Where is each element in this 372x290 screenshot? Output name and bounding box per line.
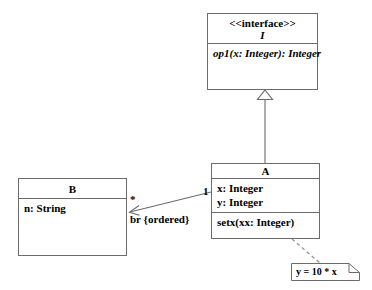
class-a-attributes-compartment: x: Integer y: Integer: [212, 178, 319, 212]
association-role-label: br {ordered}: [130, 213, 189, 225]
interface-name-compartment: <<interface>> I: [208, 14, 317, 43]
class-b-box[interactable]: B n: String: [18, 178, 127, 256]
interface-operation-item: op1(x: Integer): Integer: [213, 46, 321, 60]
class-a-attribute-item: y: Integer: [217, 195, 263, 209]
class-a-operations-compartment: setx(xx: Integer): [212, 212, 319, 240]
hollow-triangle-icon: [258, 90, 273, 100]
note-box[interactable]: y = 10 * x: [291, 263, 360, 281]
association-source-multiplicity: 1: [203, 185, 209, 197]
note-text-label: y = 10 * x: [296, 266, 337, 278]
class-b-attributes-compartment: n: String: [19, 198, 126, 257]
class-a-name-compartment: A: [212, 164, 319, 178]
interface-class-box[interactable]: <<interface>> I op1(x: Integer): Integer: [207, 13, 318, 90]
uml-class-diagram-canvas: <<interface>> I op1(x: Integer): Integer…: [0, 0, 372, 290]
class-b-name-label: B: [69, 183, 76, 195]
class-b-attribute-item: n: String: [24, 201, 66, 215]
association-target-multiplicity: *: [130, 193, 136, 205]
class-b-name-compartment: B: [19, 179, 126, 198]
note-anchor-line: [292, 239, 320, 263]
class-a-operation-item: setx(xx: Integer): [217, 215, 294, 229]
class-a-name-label: A: [262, 165, 270, 177]
interface-stereotype-label: <<interface>>: [229, 17, 296, 29]
class-a-box[interactable]: A x: Integer y: Integer setx(xx: Integer…: [211, 163, 320, 239]
class-a-attribute-item: x: Integer: [217, 181, 263, 195]
interface-name-label: I: [260, 29, 264, 41]
association-line: [130, 192, 211, 212]
interface-operations-compartment: op1(x: Integer): Integer: [208, 43, 317, 89]
